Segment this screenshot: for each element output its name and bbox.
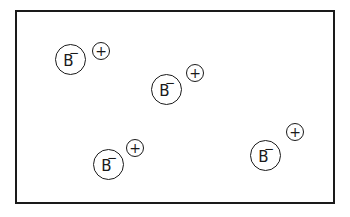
anion-charge: −: [264, 142, 274, 156]
container-box: [15, 10, 335, 204]
anion-circle: B −: [151, 74, 182, 105]
anion-charge: −: [107, 151, 117, 165]
cation-circle: +: [92, 42, 110, 60]
anion-circle: B −: [93, 149, 124, 180]
anion-circle: B −: [55, 44, 86, 75]
cation-circle: +: [126, 139, 144, 157]
anion-charge: −: [69, 46, 79, 60]
anion-charge: −: [165, 76, 175, 90]
cation-circle: +: [286, 123, 304, 141]
anion-circle: B −: [250, 140, 281, 171]
cation-circle: +: [186, 64, 204, 82]
